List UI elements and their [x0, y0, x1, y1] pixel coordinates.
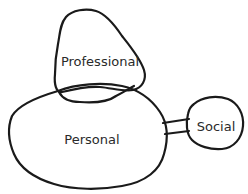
professional-label: Professional [61, 54, 139, 69]
social-label: Social [197, 119, 236, 134]
professional-shape [55, 10, 145, 92]
connector-top-line [163, 119, 189, 123]
node-social: Social [187, 97, 243, 149]
overlap-lower-arc [59, 86, 134, 102]
node-professional: Professional [55, 10, 145, 92]
diagram-canvas: Professional Personal Social [0, 0, 248, 194]
personal-label: Personal [64, 132, 119, 147]
node-personal: Personal [9, 84, 166, 189]
connector-bottom-line [165, 131, 189, 134]
